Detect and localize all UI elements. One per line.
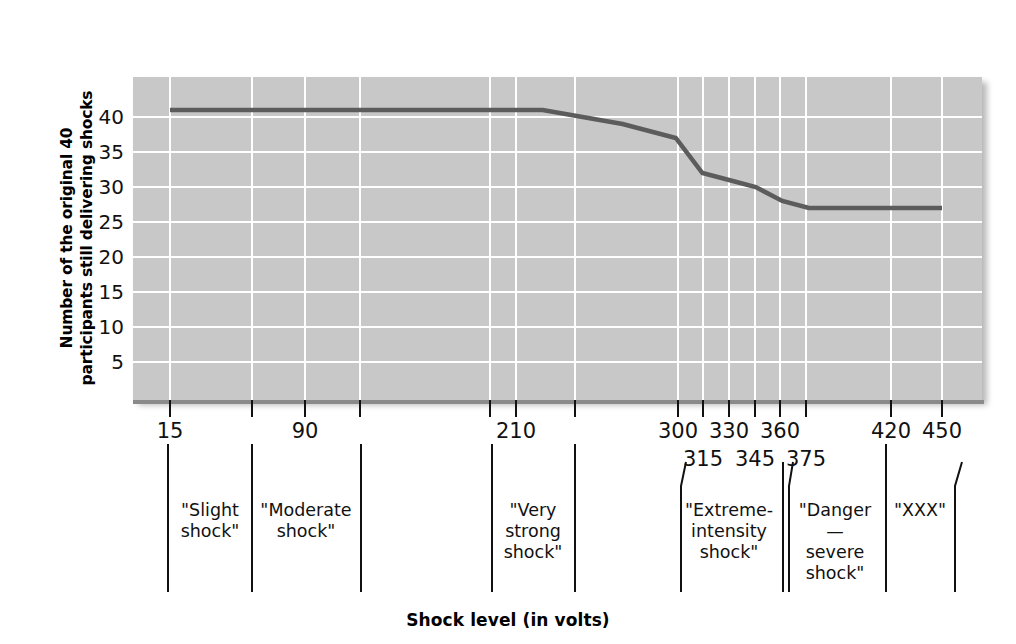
y-tick-30: 30 (99, 177, 124, 197)
y-tick-20: 20 (99, 247, 124, 267)
bracket-leader (789, 462, 793, 592)
x-axis-title: Shock level (in volts) (0, 610, 1016, 630)
y-axis-title-line1: Number of the original 40 (57, 43, 77, 433)
y-tick-25: 25 (99, 212, 124, 232)
category-brackets: "Slight shock""Moderate shock""Very stro… (0, 400, 1016, 600)
y-tick-15: 15 (99, 282, 124, 302)
category-label-danger-severe-shock: "Danger— severe shock" (794, 500, 877, 584)
chart-figure: Number of the original 40 participants s… (0, 0, 1016, 644)
plot-area (133, 77, 982, 400)
y-tick-40: 40 (99, 107, 124, 127)
category-label-extreme-intensity-shock: "Extreme- intensity shock" (685, 500, 773, 563)
y-axis-tick-labels: 40 35 30 25 20 15 10 5 (78, 70, 124, 390)
vertical-gridlines (170, 77, 942, 400)
data-series-line (170, 110, 942, 208)
category-label-slight-shock: "Slight shock" (175, 500, 245, 542)
horizontal-gridlines (133, 117, 982, 362)
y-tick-5: 5 (111, 352, 124, 372)
bracket-leader (955, 462, 962, 592)
y-tick-35: 35 (99, 142, 124, 162)
y-tick-10: 10 (99, 317, 124, 337)
category-label-xxx: "XXX" (885, 500, 955, 521)
plot-svg (133, 77, 982, 400)
category-label-moderate-shock: "Moderate shock" (259, 500, 354, 542)
category-label-very-strong-shock: "Very strong shock" (498, 500, 568, 563)
